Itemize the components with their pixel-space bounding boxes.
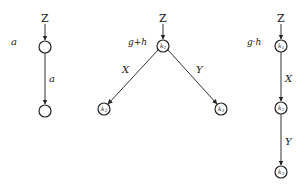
node-1: [39, 41, 51, 53]
side-label: a: [11, 36, 17, 47]
edge-x: [108, 50, 158, 104]
input-label: Z: [277, 12, 285, 25]
input-label: Z: [159, 12, 167, 25]
edge-label-x: X: [121, 64, 130, 75]
input-label: Z: [41, 12, 49, 25]
edge-label-x: X: [284, 73, 293, 84]
edge-label: a: [49, 73, 55, 84]
edge-y: [168, 50, 217, 104]
diagram-product: g·h Z k1 X k2 Y k3: [247, 12, 293, 178]
edge-label-y: Y: [196, 64, 204, 75]
diagram-canvas: a Z a g+h Z k1 X k2 Y k3 g·h Z k1 X k2 Y: [0, 0, 306, 187]
side-label: g·h: [247, 37, 261, 47]
diagram-a: a Z a: [11, 12, 55, 117]
diagram-sum: g+h Z k1 X k2 Y k3: [98, 12, 227, 115]
edge-label-y: Y: [285, 136, 293, 147]
side-label: g+h: [128, 37, 147, 47]
node-2: [39, 105, 51, 117]
